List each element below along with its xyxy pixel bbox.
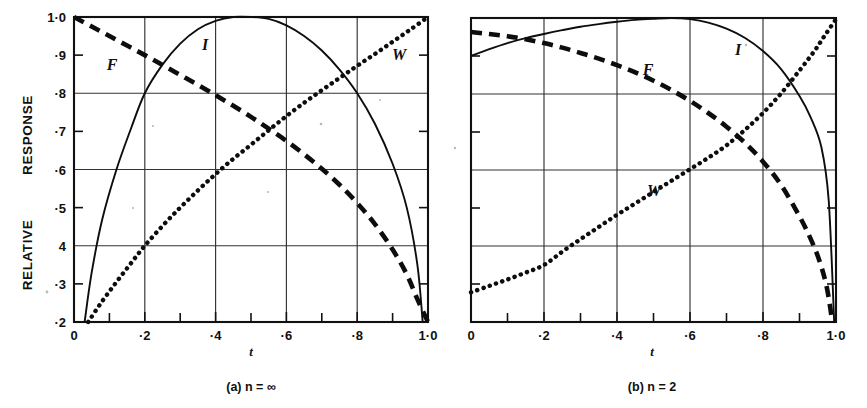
x-tick-label: 0 bbox=[467, 328, 474, 343]
x-tick-label: ·8 bbox=[351, 328, 363, 343]
curve-label-i: I bbox=[201, 36, 209, 53]
y-tick-label: ·3 bbox=[54, 277, 66, 292]
panel-a-caption: (a) n = ∞ bbox=[226, 380, 276, 394]
panel-b-caption: (b) n = 2 bbox=[628, 380, 676, 394]
x-tick-label: ·6 bbox=[684, 328, 696, 343]
x-tick-label: ·4 bbox=[210, 328, 222, 343]
curve-label-i: I bbox=[734, 41, 742, 58]
y-tick-label: ·7 bbox=[54, 124, 66, 139]
curve-label-w: W bbox=[647, 182, 663, 199]
panel-b-x-axis-label: t bbox=[650, 344, 654, 359]
x-tick-label: ·4 bbox=[611, 328, 623, 343]
x-tick-label: 0 bbox=[70, 328, 77, 343]
y-tick-label: ·6 bbox=[54, 163, 66, 178]
x-tick-label: ·8 bbox=[757, 328, 769, 343]
curve-label-f: F bbox=[106, 56, 118, 73]
x-tick-label: 1·0 bbox=[419, 328, 438, 343]
figure-background bbox=[0, 0, 867, 408]
y-tick-label: 4 bbox=[59, 239, 67, 254]
panel-a-x-axis-label: t bbox=[249, 344, 253, 359]
curve-label-f: F bbox=[642, 61, 654, 78]
y-axis-title-response: RESPONSE bbox=[20, 95, 35, 175]
x-tick-label: ·6 bbox=[281, 328, 293, 343]
x-tick-label: ·2 bbox=[538, 328, 550, 343]
y-tick-label: ·2 bbox=[54, 315, 66, 330]
x-tick-label: 1·0 bbox=[827, 328, 846, 343]
y-tick-label: 1·0 bbox=[47, 10, 66, 25]
figure-svg: RESPONSE RELATIVE 1·0·9·8·7·6·54·3·2 0·2… bbox=[0, 0, 867, 408]
y-tick-label: ·9 bbox=[54, 48, 66, 63]
curve-label-w: W bbox=[392, 46, 408, 63]
x-tick-label: ·2 bbox=[139, 328, 151, 343]
y-tick-label: ·8 bbox=[54, 86, 66, 101]
figure-container: RESPONSE RELATIVE 1·0·9·8·7·6·54·3·2 0·2… bbox=[0, 0, 867, 408]
y-axis-title-relative: RELATIVE bbox=[20, 220, 35, 291]
y-tick-label: ·5 bbox=[54, 201, 66, 216]
